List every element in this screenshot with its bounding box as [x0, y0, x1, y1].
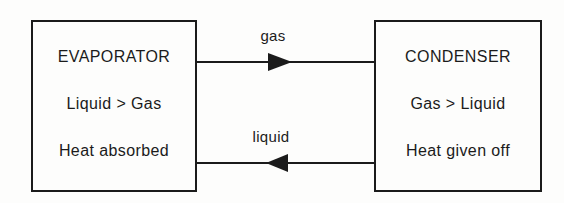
- condenser-process-label: Gas > Liquid: [410, 93, 505, 115]
- condenser-box: CONDENSER Gas > Liquid Heat given off: [374, 20, 542, 192]
- arrowhead-right-icon: [268, 53, 292, 71]
- gas-flow-label: gas: [231, 27, 315, 45]
- evaporator-box: EVAPORATOR Liquid > Gas Heat absorbed: [31, 20, 197, 192]
- evaporator-title: EVAPORATOR: [58, 46, 170, 68]
- evaporator-process-label: Liquid > Gas: [66, 93, 161, 115]
- evaporator-heat-label: Heat absorbed: [59, 140, 169, 162]
- condenser-title: CONDENSER: [405, 46, 511, 68]
- condenser-heat-label: Heat given off: [406, 140, 510, 162]
- refrigeration-cycle-diagram: EVAPORATOR Liquid > Gas Heat absorbed CO…: [0, 0, 564, 203]
- liquid-flow-label: liquid: [229, 128, 313, 146]
- arrowhead-left-icon: [266, 154, 288, 172]
